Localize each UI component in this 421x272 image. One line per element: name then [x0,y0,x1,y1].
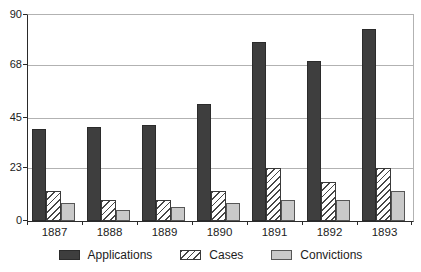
bar-convictions-1888 [116,210,130,221]
bar-cases-1889 [156,200,171,221]
y-axis-tick [23,167,27,168]
y-axis-label: 68 [0,58,22,70]
legend-item-applications: Applications [59,248,153,262]
bar-applications-1887 [32,129,46,221]
bar-cases-1892 [321,182,336,221]
bar-group-1891 [248,15,303,221]
bar-applications-1888 [87,127,101,221]
y-axis-label: 23 [0,161,22,173]
bar-convictions-1891 [281,200,295,221]
legend-swatch-applications [59,250,80,260]
x-axis-label: 1891 [247,226,302,238]
bar-applications-1893 [362,29,376,221]
y-axis-tick [23,117,27,118]
legend-label-convictions: Convictions [300,248,362,262]
x-axis-tick [192,221,193,225]
y-axis-label: 45 [0,111,22,123]
x-axis-tick [137,221,138,225]
legend-label-applications: Applications [88,248,153,262]
bar-applications-1891 [252,42,266,221]
x-axis-label: 1892 [302,226,357,238]
y-axis-tick [23,64,27,65]
bar-convictions-1893 [391,191,405,221]
bar-applications-1889 [142,125,156,221]
x-axis-label: 1889 [137,226,192,238]
bar-convictions-1890 [226,203,240,221]
x-axis-tick [82,221,83,225]
bar-group-1887 [28,15,83,221]
legend-item-convictions: Convictions [271,248,362,262]
x-axis-tick [247,221,248,225]
y-axis-label: 90 [0,8,22,20]
x-axis-label: 1893 [357,226,412,238]
bar-convictions-1887 [61,203,75,221]
bar-group-1892 [303,15,358,221]
bar-cases-1893 [376,168,391,221]
y-axis-label: 0 [0,214,22,226]
bar-cases-1887 [46,191,61,221]
y-axis-tick [23,14,27,15]
x-axis-label: 1888 [82,226,137,238]
bar-convictions-1889 [171,207,185,221]
bar-group-1889 [138,15,193,221]
x-axis-tick [411,221,412,225]
x-axis-label: 1887 [27,226,82,238]
bar-convictions-1892 [336,200,350,221]
legend: ApplicationsCasesConvictions [0,248,421,262]
plot-area [27,14,414,222]
bar-group-1888 [83,15,138,221]
bar-applications-1892 [307,61,321,221]
x-axis-label: 1890 [192,226,247,238]
bar-group-1890 [193,15,248,221]
bar-applications-1890 [197,104,211,221]
x-axis-tick [27,221,28,225]
x-axis-tick [357,221,358,225]
bar-group-1893 [358,15,413,221]
legend-swatch-convictions [271,250,292,260]
bar-chart: 023456890 1887188818891890189118921893 A… [0,0,421,272]
legend-swatch-cases [180,250,201,260]
bar-cases-1888 [101,200,116,221]
bar-cases-1890 [211,191,226,221]
legend-label-cases: Cases [209,248,243,262]
x-axis-tick [302,221,303,225]
legend-item-cases: Cases [180,248,243,262]
bar-cases-1891 [266,168,281,221]
